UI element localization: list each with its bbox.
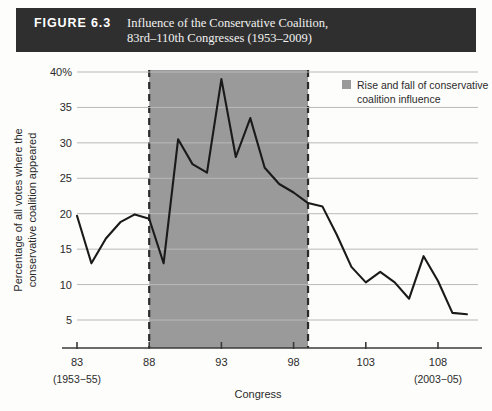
y-tick-label: 40% [50, 66, 72, 78]
line-chart: 510152025303540% 83889398103108 Percenta… [0, 0, 492, 411]
x-tick-label: 93 [215, 356, 227, 368]
y-tick-label: 15 [60, 243, 72, 255]
x-tick-label: 88 [143, 356, 155, 368]
x-axis-title: Congress [234, 388, 282, 400]
y-axis-tick-labels: 510152025303540% [50, 66, 72, 326]
chart-container: 510152025303540% 83889398103108 Percenta… [0, 0, 492, 411]
x-tick-label: 103 [357, 356, 375, 368]
x-axis-sublabel-left: (1953−55) [53, 373, 101, 385]
x-tick-label: 98 [287, 356, 299, 368]
y-tick-label: 35 [60, 101, 72, 113]
y-tick-label: 25 [60, 172, 72, 184]
shaded-region-rect [149, 70, 308, 348]
legend-label-line-1: Rise and fall of conservative [357, 79, 488, 91]
x-axis-sublabel-right: (2003−05) [414, 373, 462, 385]
legend-label-line-2: coalition influence [357, 93, 441, 105]
y-axis-title-line-1: Percentage of all votes where the [12, 128, 24, 291]
y-tick-label: 10 [60, 279, 72, 291]
legend-color-swatch [342, 80, 351, 89]
x-tick-label: 108 [429, 356, 447, 368]
y-tick-label: 5 [66, 314, 72, 326]
x-tick-label: 83 [71, 356, 83, 368]
y-tick-label: 20 [60, 208, 72, 220]
y-axis-title-line-2: conservative coalition appeared [26, 133, 38, 288]
y-tick-label: 30 [60, 137, 72, 149]
figure-page: FIGURE 6.3 Influence of the Conservative… [0, 0, 492, 411]
